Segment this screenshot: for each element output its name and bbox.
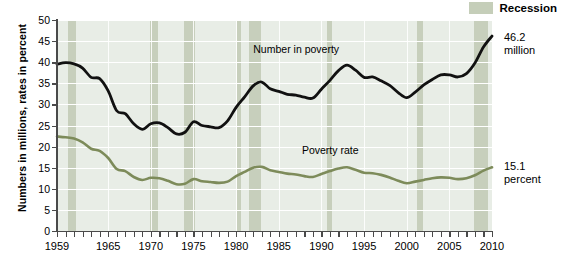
x-tick-mark <box>458 232 459 237</box>
y-tick-mark <box>52 104 57 105</box>
x-tick-mark <box>483 232 484 237</box>
x-tick-mark <box>159 232 160 237</box>
y-tick-label: 20 <box>24 142 50 152</box>
x-tick-label: 1965 <box>88 240 128 252</box>
y-tick-mark <box>52 126 57 127</box>
x-tick-mark <box>185 232 186 237</box>
x-tick-mark <box>219 232 220 237</box>
y-tick-label: 0 <box>24 226 50 236</box>
x-tick-label: 1975 <box>173 240 213 252</box>
gridline <box>492 20 493 231</box>
x-tick-label: 2010 <box>472 240 512 252</box>
x-tick-mark <box>253 232 254 237</box>
x-tick-mark <box>66 232 67 237</box>
poverty-rate-line <box>57 136 492 184</box>
x-tick-label: 1970 <box>131 240 171 252</box>
y-tick-mark <box>52 41 57 42</box>
x-tick-label: 1985 <box>259 240 299 252</box>
callout-rate-unit: percent <box>504 173 541 186</box>
x-tick-mark <box>390 232 391 237</box>
x-tick-mark <box>373 232 374 237</box>
x-tick-mark <box>134 232 135 237</box>
y-tick-label: 40 <box>24 57 50 67</box>
x-tick-mark <box>492 232 493 237</box>
legend-label: Recession <box>499 2 557 14</box>
y-tick-label: 15 <box>24 163 50 173</box>
recession-swatch-icon <box>469 2 493 14</box>
x-tick-mark <box>407 232 408 237</box>
x-tick-mark <box>236 232 237 237</box>
x-tick-mark <box>279 232 280 237</box>
poverty-chart: Recession Numbers in millions, rates in … <box>0 0 565 271</box>
x-tick-mark <box>202 232 203 237</box>
x-tick-mark <box>74 232 75 237</box>
callout-number-value: 46.2 <box>504 31 535 44</box>
x-tick-label: 2000 <box>387 240 427 252</box>
x-tick-label: 1990 <box>301 240 341 252</box>
x-tick-mark <box>262 232 263 237</box>
x-tick-label: 2005 <box>429 240 469 252</box>
x-tick-mark <box>176 232 177 237</box>
x-tick-mark <box>83 232 84 237</box>
x-tick-mark <box>193 232 194 237</box>
x-tick-mark <box>296 232 297 237</box>
x-tick-label: 1959 <box>37 240 77 252</box>
x-tick-mark <box>347 232 348 237</box>
x-tick-mark <box>287 232 288 237</box>
x-tick-mark <box>466 232 467 237</box>
x-tick-label: 1995 <box>344 240 384 252</box>
y-tick-label: 35 <box>24 78 50 88</box>
x-tick-label: 1980 <box>216 240 256 252</box>
x-tick-mark <box>100 232 101 237</box>
x-tick-mark <box>432 232 433 237</box>
y-tick-label: 45 <box>24 36 50 46</box>
x-tick-mark <box>338 232 339 237</box>
x-tick-mark <box>270 232 271 237</box>
x-tick-mark <box>449 232 450 237</box>
x-tick-mark <box>381 232 382 237</box>
y-tick-mark <box>52 210 57 211</box>
x-tick-mark <box>364 232 365 237</box>
annotation-poverty-rate: Poverty rate <box>302 144 359 156</box>
x-tick-mark <box>424 232 425 237</box>
callout-poverty-rate: 15.1 percent <box>504 160 541 186</box>
legend: Recession <box>469 2 557 14</box>
x-tick-mark <box>415 232 416 237</box>
callout-rate-value: 15.1 <box>504 160 541 173</box>
x-tick-mark <box>356 232 357 237</box>
y-tick-mark <box>52 20 57 21</box>
x-tick-mark <box>330 232 331 237</box>
annotation-number-in-poverty: Number in poverty <box>253 43 339 55</box>
x-tick-mark <box>108 232 109 237</box>
x-tick-mark <box>125 232 126 237</box>
x-tick-mark <box>441 232 442 237</box>
x-axis-line <box>56 231 493 233</box>
x-tick-mark <box>475 232 476 237</box>
x-tick-mark <box>168 232 169 237</box>
callout-number-unit: million <box>504 44 535 57</box>
y-tick-mark <box>52 83 57 84</box>
x-tick-mark <box>151 232 152 237</box>
x-tick-mark <box>91 232 92 237</box>
x-tick-mark <box>245 232 246 237</box>
y-tick-label: 5 <box>24 205 50 215</box>
x-tick-mark <box>117 232 118 237</box>
x-tick-mark <box>304 232 305 237</box>
y-tick-label: 50 <box>24 15 50 25</box>
x-tick-mark <box>57 232 58 237</box>
x-tick-mark <box>211 232 212 237</box>
y-tick-mark <box>52 62 57 63</box>
x-tick-mark <box>321 232 322 237</box>
x-tick-mark <box>398 232 399 237</box>
y-tick-mark <box>52 168 57 169</box>
y-tick-label: 30 <box>24 99 50 109</box>
x-tick-mark <box>142 232 143 237</box>
y-tick-mark <box>52 147 57 148</box>
x-tick-mark <box>313 232 314 237</box>
y-tick-label: 10 <box>24 184 50 194</box>
callout-number-in-poverty: 46.2 million <box>504 31 535 57</box>
x-tick-mark <box>228 232 229 237</box>
y-tick-mark <box>52 189 57 190</box>
y-tick-label: 25 <box>24 121 50 131</box>
